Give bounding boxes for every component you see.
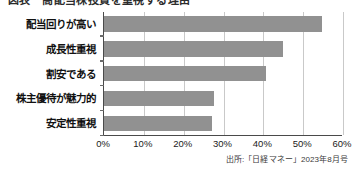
bar-row <box>104 62 342 87</box>
figure-title-clipped: 図表 高配当株投資を重視する理由 <box>0 0 354 7</box>
value-axis-labels: 0%10%20%30%40%50%60% <box>103 138 342 151</box>
category-label-2: 成長性重視 <box>46 37 96 62</box>
bar-3[interactable] <box>104 66 266 82</box>
source-note: 出所:「日経マネー」2023年8月号 <box>226 153 348 164</box>
bar-4[interactable] <box>104 91 214 107</box>
x-tick-label-20: 20% <box>173 138 192 149</box>
bar-2[interactable] <box>104 41 283 57</box>
bar-row <box>104 12 342 37</box>
bar-5[interactable] <box>104 116 212 132</box>
bar-row <box>104 111 342 136</box>
category-label-3: 割安である <box>46 62 96 87</box>
category-tick-5 <box>100 135 104 136</box>
x-tick-label-10: 10% <box>133 138 152 149</box>
category-label-4: 株主優待が魅力的 <box>16 86 96 111</box>
chart-screenshot: 図表 高配当株投資を重視する理由 配当回りが高い成長性重視割安である株主優待が魅… <box>0 0 354 169</box>
x-tick-label-30: 30% <box>213 138 232 149</box>
figure-title-text: 図表 高配当株投資を重視する理由 <box>8 0 190 7</box>
bar-row <box>104 37 342 62</box>
category-label-5: 安定性重視 <box>46 111 96 136</box>
x-tick-label-50: 50% <box>293 138 312 149</box>
bar-1[interactable] <box>104 16 322 32</box>
gridline-60 <box>343 12 344 135</box>
category-axis-labels: 配当回りが高い成長性重視割安である株主優待が魅力的安定性重視 <box>0 12 100 136</box>
x-tick-label-60: 60% <box>332 138 351 149</box>
plot-area <box>103 12 342 136</box>
x-tick-label-0: 0% <box>96 138 110 149</box>
bar-series <box>104 12 342 135</box>
bar-row <box>104 86 342 111</box>
category-label-1: 配当回りが高い <box>26 12 96 37</box>
x-tick-label-40: 40% <box>253 138 272 149</box>
